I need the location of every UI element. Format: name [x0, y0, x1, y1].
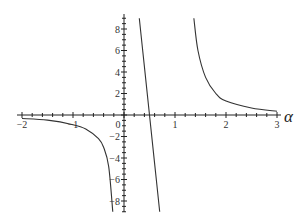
y-tick-label: −4 — [109, 153, 120, 164]
x-tick-label: 3 — [275, 119, 280, 130]
x-tick-label: 0 — [116, 119, 121, 130]
x-tick-label: −2 — [17, 119, 28, 130]
branch-left-curve — [22, 119, 113, 212]
axes: −2−10123 −8−6−4−22468 α — [17, 14, 294, 212]
x-axis-label: α — [284, 107, 294, 126]
y-tick-label: 8 — [115, 24, 120, 35]
branch-right-curve — [194, 18, 277, 111]
y-tick-label: 6 — [115, 45, 120, 56]
x-tick-label: 2 — [224, 119, 229, 130]
chart-plot-area: −2−10123 −8−6−4−22468 α — [0, 0, 308, 223]
y-tick-label: 2 — [115, 88, 120, 99]
x-tick-label: 1 — [173, 119, 178, 130]
x-tick-labels: −2−10123 — [17, 119, 280, 130]
y-tick-label: 4 — [115, 67, 120, 78]
y-tick-label: −2 — [109, 131, 120, 142]
y-tick-label: −8 — [109, 196, 120, 207]
